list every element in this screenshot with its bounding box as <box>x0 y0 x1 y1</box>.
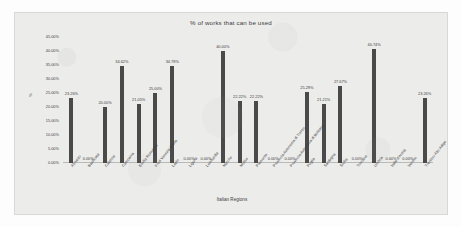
x-axis-label-slot: Abruzzo <box>63 165 80 220</box>
bar-value-label: 40.00% <box>216 45 229 49</box>
bar[interactable] <box>221 51 225 163</box>
bar-group[interactable]: 0.00% <box>399 37 416 163</box>
bar[interactable] <box>372 49 376 163</box>
bar-value-label: 21.05% <box>132 98 145 102</box>
bar-value-label: 20.00% <box>98 101 111 105</box>
x-axis-label-slot: Piemonte <box>248 165 265 220</box>
bar-group[interactable]: 34.62% <box>113 37 130 163</box>
x-axis-label-slot: Umbria <box>366 165 383 220</box>
x-axis-label-slot: Valle d'Aosta <box>383 165 400 220</box>
bar-group[interactable]: 22.22% <box>248 37 265 163</box>
bar-group[interactable]: 0.00% <box>265 37 282 163</box>
x-axis-label-slot: Molise <box>231 165 248 220</box>
x-axis-tick-label: Lazio <box>172 159 181 168</box>
x-axis-label-slot: Sardegna <box>315 165 332 220</box>
bar[interactable] <box>338 86 342 163</box>
x-axis-label-slot: Toscana <box>349 165 366 220</box>
bar-value-label: 25.00% <box>149 87 162 91</box>
bar-value-label: 22.22% <box>233 95 246 99</box>
bar-value-label: 22.22% <box>250 95 263 99</box>
plot-area: 23.26%0.00%20.00%34.62%21.05%25.00%34.78… <box>63 37 433 163</box>
bar[interactable] <box>120 66 124 163</box>
y-axis-tick-label: 35.00% <box>46 63 59 67</box>
bar-group[interactable]: 40.74% <box>366 37 383 163</box>
y-axis-title: % <box>28 93 33 97</box>
x-axis-label-slot: Veneto <box>399 165 416 220</box>
bar-group[interactable]: 22.22% <box>231 37 248 163</box>
chart-title: % of works that can be used <box>15 19 447 26</box>
y-axis: 0.00%5.00%10.00%15.00%20.00%25.00%30.00%… <box>35 37 61 163</box>
x-axis-label-slot: Campania <box>113 165 130 220</box>
bar-value-label: 23.26% <box>418 92 431 96</box>
x-axis-label-slot: Calabria <box>97 165 114 220</box>
bar[interactable] <box>322 104 326 163</box>
bar[interactable] <box>423 98 427 163</box>
bar[interactable] <box>254 101 258 163</box>
bar[interactable] <box>238 101 242 163</box>
x-axis-label-slot: Lombardia <box>198 165 215 220</box>
bar-value-label: 34.78% <box>166 60 179 64</box>
bar[interactable] <box>103 107 107 163</box>
y-axis-tick-label: 40.00% <box>46 49 59 53</box>
x-axis-label-slot: Lazio <box>164 165 181 220</box>
x-axis-label-slot: Marche <box>214 165 231 220</box>
bar-group[interactable]: 0.00% <box>80 37 97 163</box>
x-axis-title: Italian Regions <box>15 197 449 202</box>
x-axis-label-slot: Provincia Autonoma di Bolzano <box>282 165 299 220</box>
y-axis-tick-label: 0.00% <box>48 161 59 165</box>
x-axis-label-slot: Friuli Venezia Giulia <box>147 165 164 220</box>
bar-value-label: 25.29% <box>300 86 313 90</box>
bar-group[interactable]: 20.00% <box>97 37 114 163</box>
y-axis-tick-label: 10.00% <box>46 133 59 137</box>
y-axis-tick-label: 20.00% <box>46 105 59 109</box>
bar-group[interactable]: 23.26% <box>63 37 80 163</box>
y-axis-tick-label: 30.00% <box>46 77 59 81</box>
bar-group[interactable]: 0.00% <box>383 37 400 163</box>
bar-value-label: 23.26% <box>65 92 78 96</box>
bar-group[interactable]: 0.00% <box>198 37 215 163</box>
bar-group[interactable]: 0.00% <box>181 37 198 163</box>
x-axis-label-slot: Basilicata <box>80 165 97 220</box>
y-axis-tick-label: 45.00% <box>46 35 59 39</box>
bar-group[interactable]: 23.26% <box>416 37 433 163</box>
x-axis-label-slot: Emilia-Romagna <box>130 165 147 220</box>
bar-group[interactable]: 21.05% <box>130 37 147 163</box>
x-axis-label-slot: Puglia <box>298 165 315 220</box>
y-axis-tick-label: 15.00% <box>46 119 59 123</box>
bar[interactable] <box>69 98 73 163</box>
bar[interactable] <box>137 104 141 163</box>
bar-group[interactable]: 40.00% <box>214 37 231 163</box>
x-axis-label-slot: Sicilia <box>332 165 349 220</box>
bar-value-label: 21.21% <box>317 98 330 102</box>
chart-panel: % of works that can be used % 0.00%5.00%… <box>14 12 448 215</box>
x-axis-labels: AbruzzoBasilicataCalabriaCampaniaEmilia-… <box>63 165 433 220</box>
bar-group[interactable]: 21.21% <box>315 37 332 163</box>
y-axis-tick-label: 5.00% <box>48 147 59 151</box>
x-axis-label-slot: Trentino-Alto Adige <box>416 165 433 220</box>
screenshot-page: % of works that can be used % 0.00%5.00%… <box>0 0 462 227</box>
x-axis-label-slot: Liguria <box>181 165 198 220</box>
x-axis-label-slot: Provincia Autonoma di Trento <box>265 165 282 220</box>
bar-group[interactable]: 27.67% <box>332 37 349 163</box>
bar-value-label: 40.74% <box>368 43 381 47</box>
bar-group[interactable]: 0.00% <box>349 37 366 163</box>
bar-value-label: 34.62% <box>115 60 128 64</box>
y-axis-tick-label: 25.00% <box>46 91 59 95</box>
bar-value-label: 27.67% <box>334 80 347 84</box>
